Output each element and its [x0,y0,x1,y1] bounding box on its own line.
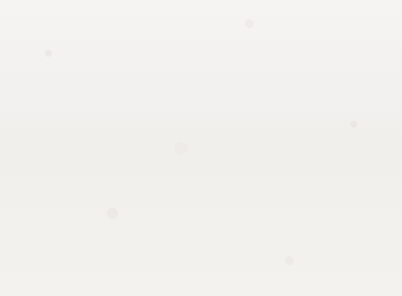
category-label: NorthAmerica [316,214,383,237]
bar-group: 0.740.71 [194,18,241,210]
y-axis-tick-label: 6.0 [30,13,43,23]
y-axis-tick-label: 4.0 [30,77,43,87]
y-axis-tick-label: 2.5 [30,126,43,136]
bar-group: 4.305.16 [61,18,108,210]
bar-group: 0.360.45 [327,18,374,210]
category-label: Africa [117,214,184,226]
bars-layer: 4.305.161.112.390.740.710.620.780.360.45 [51,18,384,210]
category-label: Europe [183,214,250,226]
bar: 0.62 [261,190,283,210]
bar: 2.39 [152,133,174,210]
x-axis-category-labels: AsiaAfricaEuropeLatinAmerica andCaribbea… [50,214,385,256]
y-axis-tick-label: 1.0 [30,174,43,184]
y-axis-title: Population (in billions) [8,0,18,135]
bar-value-label: 0.78 [288,174,306,184]
bar: 0.45 [352,196,374,210]
bar: 1.11 [127,174,149,210]
y-axis-tick-label: 2.0 [30,142,43,152]
bar: 0.74 [194,186,216,210]
bar-value-label: 5.16 [88,33,106,43]
chart-legend: Population in 2013Population in 2050 (pr… [92,263,357,284]
y-axis-tick-label: 3.5 [30,93,43,103]
y-axis-tick-mark [46,210,51,211]
legend-item: Population in 2050 (projected) [208,268,348,279]
bar: 0.36 [327,198,349,210]
bar: 0.71 [219,187,241,210]
y-axis-tick-label: 0.5 [30,190,43,200]
bar-value-label: 0.71 [221,176,239,186]
plot-area: 6.05.55.04.54.03.53.02.52.01.51.00.50 4.… [50,18,385,211]
y-axis-tick-label: 1.5 [30,158,43,168]
bar-group: 0.620.78 [261,18,308,210]
bar-value-label: 0.36 [329,187,347,197]
category-label: Asia [50,214,117,226]
bar-value-label: 0.45 [354,185,372,195]
y-axis-tick-label: 5.5 [30,29,43,39]
legend-swatch [102,270,110,278]
legend-label: Population in 2050 (projected) [221,268,348,279]
bar-value-label: 2.39 [155,122,173,132]
legend-swatch [208,270,216,278]
bar-value-label: 4.30 [63,61,81,71]
y-axis-tick-label: 0 [38,206,43,216]
bar-group: 1.112.39 [127,18,174,210]
bar: 5.16 [86,44,108,210]
chart-title: World Population in 2013 and 2050 (in bi… [0,1,402,13]
bar: 4.30 [61,72,83,210]
y-axis-tick-label: 5.0 [30,45,43,55]
legend-item: Population in 2013 [102,268,194,279]
y-axis-tick-label: 3.0 [30,110,43,120]
category-label: LatinAmerica andCaribbean [250,214,317,249]
bar-chart: World Population in 2013 and 2050 (in bi… [0,0,402,296]
bar-value-label: 0.74 [196,175,214,185]
legend-label: Population in 2013 [115,268,194,279]
bar-value-label: 1.11 [130,163,147,173]
y-axis-tick-label: 4.5 [30,61,43,71]
bar: 0.78 [286,185,308,210]
bar-value-label: 0.62 [263,179,281,189]
